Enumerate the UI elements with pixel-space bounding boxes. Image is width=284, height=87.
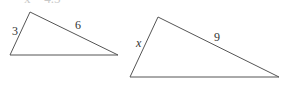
similar-triangles-diagram: 3 6 x 9 (0, 0, 284, 87)
triangle-small: 3 6 (10, 12, 118, 55)
label-side-x: x (135, 36, 142, 50)
label-side-3: 3 (12, 24, 18, 38)
triangle-large: x 9 (130, 17, 279, 77)
label-side-9: 9 (214, 30, 220, 44)
label-side-6: 6 (75, 18, 81, 32)
